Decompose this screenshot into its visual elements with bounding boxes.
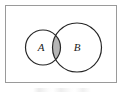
set-label-a: A xyxy=(37,41,45,53)
set-label-b: B xyxy=(74,41,81,53)
universal-set-rectangle xyxy=(6,6,117,83)
venn-diagram-canvas: A B xyxy=(0,0,124,97)
venn-diagram-figure: A B xyxy=(0,0,124,97)
